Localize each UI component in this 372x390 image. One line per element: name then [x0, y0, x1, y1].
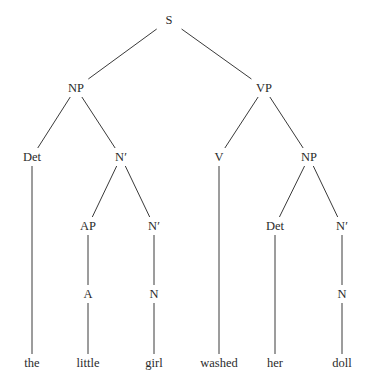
node-det2: Det: [266, 220, 284, 233]
edge-np2-det2: [279, 166, 304, 217]
edge-nbar1-ap: [92, 166, 116, 217]
node-nbar1: N′: [115, 151, 127, 164]
word-doll: doll: [332, 357, 351, 370]
node-nbar2: N′: [148, 220, 160, 233]
edge-vp-np2: [270, 97, 303, 148]
node-v: V: [214, 151, 223, 164]
node-ap: AP: [80, 220, 96, 233]
edge-np2-nbar3: [313, 166, 337, 217]
edge-np1-nbar1: [82, 97, 115, 148]
edge-nbar1-nbar2: [125, 166, 149, 217]
node-vp: VP: [256, 82, 272, 95]
edge-vp-v: [225, 97, 258, 148]
word-her: her: [267, 357, 283, 370]
node-nbar3: N′: [336, 220, 348, 233]
node-det1: Det: [23, 151, 41, 164]
node-n2: N: [337, 288, 346, 301]
node-s: S: [166, 14, 173, 27]
word-washed: washed: [200, 357, 238, 370]
node-np2: NP: [301, 151, 317, 164]
tree-edges: [0, 0, 372, 390]
word-girl: girl: [145, 357, 162, 370]
edge-np1-det1: [38, 97, 71, 148]
node-a: A: [83, 288, 92, 301]
edge-s-vp: [182, 29, 252, 79]
edge-s-np1: [88, 29, 156, 79]
node-n1: N: [149, 288, 158, 301]
node-np1: NP: [68, 82, 84, 95]
word-the: the: [24, 357, 39, 370]
word-little: little: [77, 357, 100, 370]
